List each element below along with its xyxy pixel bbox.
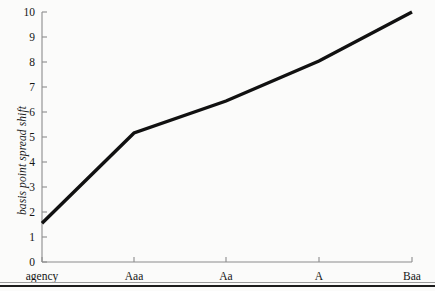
chart-figure: basis point spread shift 012345678910 ag… <box>0 0 435 291</box>
y-tick-label: 8 <box>9 55 35 69</box>
y-tick-label: 3 <box>9 180 35 194</box>
y-tick-label: 2 <box>9 205 35 219</box>
y-tick-label: 1 <box>9 230 35 244</box>
y-tick-label: 5 <box>9 130 35 144</box>
y-tick-label: 7 <box>9 80 35 94</box>
y-tick-label: 4 <box>9 155 35 169</box>
axes-group <box>42 12 412 262</box>
y-tick-label: 0 <box>9 255 35 269</box>
y-tick-label: 10 <box>9 5 35 19</box>
y-tick-label: 9 <box>9 30 35 44</box>
line-chart-plot <box>0 0 435 291</box>
y-axis-ticks <box>42 12 47 262</box>
x-axis-ticks <box>42 257 412 262</box>
footer-rule <box>0 285 435 287</box>
data-series-line <box>42 12 412 223</box>
y-tick-label: 6 <box>9 105 35 119</box>
footer-rule-thin <box>0 282 435 283</box>
